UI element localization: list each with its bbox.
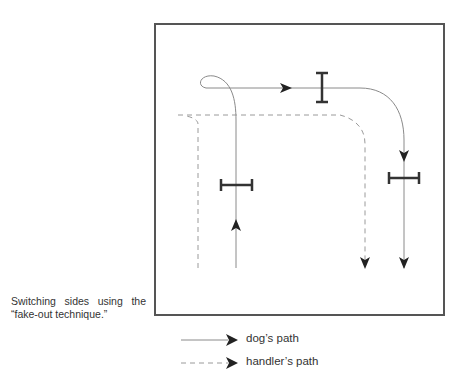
handler-path — [178, 115, 365, 268]
legend-dog-label: dog’s path — [246, 332, 299, 344]
caption-line-1: Switching sides using the — [11, 295, 146, 308]
ring-boundary — [155, 24, 444, 315]
course-diagram — [0, 0, 465, 387]
figure-caption: Switching sides using the “fake-out tech… — [11, 295, 146, 321]
legend-handler-label: handler’s path — [246, 355, 318, 367]
caption-line-2: “fake-out technique.” — [11, 308, 146, 321]
dog-path — [200, 76, 404, 268]
